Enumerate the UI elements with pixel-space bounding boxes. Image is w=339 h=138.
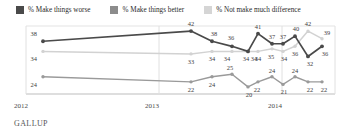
legend-item-make-things-worse: % Make things worse — [16, 6, 90, 14]
data-point-make-things-worse — [281, 42, 285, 46]
data-label-make-things-better: 22 — [307, 86, 313, 93]
data-label-make-things-worse: 41 — [255, 23, 261, 30]
data-label-make-things-worse: 42 — [188, 22, 194, 27]
data-point-not-make-much-difference — [256, 50, 259, 53]
data-point-make-things-worse — [41, 39, 45, 43]
legend-item-not-make-much-difference: % Not make much difference — [204, 6, 301, 14]
data-label-make-things-worse: 36 — [228, 34, 234, 41]
x-axis-tick-2012: 2012 — [14, 101, 28, 111]
legend-swatch-make-things-worse — [16, 6, 24, 14]
data-point-not-make-much-difference — [270, 47, 273, 50]
data-label-make-things-worse: 36 — [322, 50, 328, 57]
data-label-not-make-much-difference: 34 — [209, 55, 216, 62]
data-label-make-things-worse: 34 — [243, 55, 250, 62]
data-label-make-things-better: 22 — [321, 86, 327, 93]
data-label-make-things-better: 20 — [246, 91, 252, 98]
chart-legend: % Make things worse % Make things better… — [0, 2, 339, 18]
data-point-make-things-better — [256, 80, 259, 83]
data-point-not-make-much-difference — [281, 50, 284, 53]
data-label-not-make-much-difference: 33 — [188, 58, 194, 65]
data-point-not-make-much-difference — [230, 50, 233, 53]
legend-label-make-things-better: % Make things better — [122, 6, 184, 14]
data-label-make-things-better: 22 — [254, 86, 260, 93]
data-point-make-things-better — [210, 75, 213, 78]
data-label-make-things-worse: 37 — [280, 33, 287, 40]
data-point-make-things-better — [281, 83, 284, 86]
data-label-not-make-much-difference: 35 — [268, 53, 274, 60]
data-label-not-make-much-difference: 34 — [31, 55, 38, 62]
legend-swatch-not-make-much-difference — [204, 6, 212, 14]
data-label-not-make-much-difference: 34 — [281, 55, 288, 62]
data-label-make-things-better: 25 — [227, 64, 233, 71]
data-label-not-make-much-difference: 36 — [292, 50, 298, 57]
data-label-make-things-worse: 40 — [293, 25, 299, 32]
data-point-make-things-worse — [270, 42, 274, 46]
data-point-make-things-worse — [230, 44, 234, 48]
data-point-make-things-better — [41, 75, 44, 78]
data-point-make-things-better — [306, 80, 309, 83]
data-label-make-things-worse: 32 — [307, 60, 313, 67]
chart-plot-area: 2422242520222421242222384238363441373740… — [0, 22, 339, 100]
series-make-things-better — [41, 73, 323, 89]
data-label-make-things-better: 24 — [269, 67, 276, 74]
data-label-not-make-much-difference: 39 — [324, 29, 330, 36]
data-point-make-things-better — [320, 80, 323, 83]
data-label-not-make-much-difference: 34 — [224, 55, 231, 62]
data-label-make-things-worse: 38 — [211, 30, 217, 37]
data-point-make-things-better — [293, 75, 296, 78]
data-point-not-make-much-difference — [210, 50, 213, 53]
legend-label-not-make-much-difference: % Not make much difference — [216, 6, 301, 14]
data-point-make-things-worse — [256, 32, 260, 36]
data-label-make-things-better: 24 — [31, 81, 38, 88]
data-point-make-things-better — [270, 75, 273, 78]
chart-root: % Make things worse % Make things better… — [0, 0, 339, 138]
data-point-make-things-worse — [320, 44, 324, 48]
data-point-make-things-worse — [293, 34, 297, 38]
data-point-make-things-worse — [306, 55, 310, 59]
x-axis: 2012 2013 2014 — [0, 101, 339, 115]
data-label-make-things-better: 21 — [281, 88, 287, 95]
data-point-not-make-much-difference — [189, 52, 192, 55]
data-point-make-things-better — [230, 73, 233, 76]
data-label-make-things-better: 24 — [292, 67, 299, 74]
data-label-not-make-much-difference: 34 — [255, 55, 262, 62]
data-label-make-things-better: 22 — [188, 86, 194, 93]
data-point-make-things-worse — [246, 49, 250, 53]
data-point-make-things-worse — [189, 29, 193, 33]
legend-swatch-make-things-better — [110, 6, 118, 14]
data-point-not-make-much-difference — [293, 45, 296, 48]
data-point-make-things-better — [189, 80, 192, 83]
line-chart-svg: 2422242520222421242222384238363441373740… — [0, 22, 339, 100]
x-axis-tick-2013: 2013 — [145, 101, 159, 111]
series-line-make-things-better — [43, 74, 322, 87]
data-point-not-make-much-difference — [41, 50, 44, 53]
data-point-make-things-better — [246, 85, 249, 88]
data-point-not-make-much-difference — [306, 29, 309, 32]
data-label-make-things-better: 24 — [209, 81, 216, 88]
source-attribution: GALLUP — [14, 119, 48, 128]
legend-item-make-things-better: % Make things better — [110, 6, 184, 14]
x-axis-tick-2014: 2014 — [268, 101, 282, 111]
data-point-not-make-much-difference — [320, 37, 323, 40]
legend-label-make-things-worse: % Make things worse — [28, 6, 90, 14]
data-label-make-things-worse: 38 — [31, 30, 37, 37]
data-label-not-make-much-difference: 42 — [305, 22, 311, 27]
data-point-make-things-worse — [210, 39, 214, 43]
data-label-make-things-worse: 37 — [269, 33, 276, 40]
